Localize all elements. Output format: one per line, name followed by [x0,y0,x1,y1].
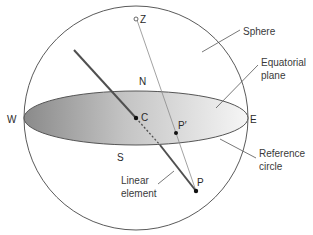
label-w: W [7,114,17,125]
sphere-diagram: Z N W E C P′ S P Sphere Equatorial plane… [0,0,313,235]
label-n: N [139,76,146,87]
label-c: C [141,112,148,123]
label-reference-line2: circle [259,161,283,172]
label-p: P [197,177,204,188]
projection-point [174,131,178,135]
label-p-prime: P′ [178,120,187,131]
label-sphere: Sphere [243,26,276,37]
label-e: E [250,114,257,125]
equatorial-plane-leader [216,65,258,108]
label-z: Z [140,14,146,25]
reference-circle-leader [220,139,256,158]
pole-point [194,189,198,193]
label-reference-line1: Reference [259,148,306,159]
sphere-leader [202,30,240,52]
label-linear-line1: Linear [121,175,149,186]
linear-element-lower [160,145,196,191]
label-equatorial-line2: plane [261,70,286,81]
linear-element-leader [158,171,174,184]
zenith-point [134,17,138,21]
center-point [134,116,138,120]
label-linear-line2: element [121,188,157,199]
label-s: S [117,152,124,163]
label-equatorial-line1: Equatorial [261,57,306,68]
